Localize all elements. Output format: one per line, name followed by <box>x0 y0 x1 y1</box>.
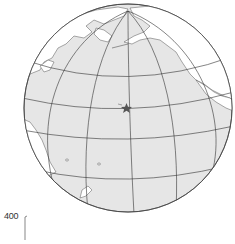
land-samoa <box>98 163 101 165</box>
globe-map <box>0 0 235 244</box>
scale-bar-label: 400 <box>4 211 18 221</box>
scale-bar <box>25 216 27 240</box>
land-fiji <box>66 159 69 161</box>
